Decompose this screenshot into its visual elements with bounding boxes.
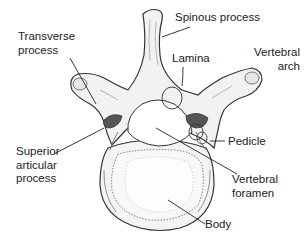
vertebral-body xyxy=(100,140,214,231)
label-superior-articular-process: Superior articular process xyxy=(16,145,59,186)
label-vertebral-foramen: Vertebral foramen xyxy=(232,173,278,200)
label-body: Body xyxy=(205,218,231,232)
label-vertebral-arch: Vertebral arch xyxy=(240,46,300,73)
vertebral-arch xyxy=(71,10,262,151)
label-spinous-process: Spinous process xyxy=(175,11,260,25)
label-pedicle: Pedicle xyxy=(228,135,266,149)
label-lamina: Lamina xyxy=(172,52,210,66)
label-transverse-process: Transverse process xyxy=(18,30,75,57)
